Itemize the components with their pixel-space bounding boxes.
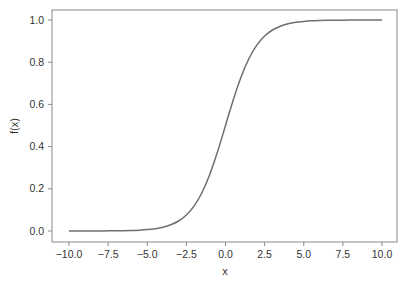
x-tick-label: −10.0 [56, 248, 83, 260]
y-tick-label: 0.8 [29, 56, 44, 68]
plot-frame [52, 10, 397, 242]
y-axis-ticks: 0.00.20.40.60.81.0 [29, 14, 52, 237]
x-axis-ticks: −10.0−7.5−5.0−2.50.02.55.07.510.0 [56, 242, 393, 260]
y-tick-label: 1.0 [29, 14, 44, 26]
x-tick-label: 0.0 [218, 248, 233, 260]
sigmoid-curve [69, 20, 382, 231]
y-tick-label: 0.2 [29, 182, 44, 194]
y-tick-label: 0.0 [29, 225, 44, 237]
x-tick-label: 10.0 [372, 248, 393, 260]
series-layer [69, 20, 382, 231]
x-tick-label: −5.0 [137, 248, 158, 260]
x-tick-label: −2.5 [176, 248, 197, 260]
x-axis-label: x [222, 265, 228, 277]
y-tick-label: 0.4 [29, 140, 44, 152]
x-tick-label: 5.0 [296, 248, 311, 260]
y-axis-label: f(x) [8, 118, 20, 134]
x-tick-label: 7.5 [336, 248, 351, 260]
y-tick-label: 0.6 [29, 98, 44, 110]
x-tick-label: −7.5 [98, 248, 119, 260]
sigmoid-chart: −10.0−7.5−5.0−2.50.02.55.07.510.0 0.00.2… [0, 0, 408, 285]
chart: −10.0−7.5−5.0−2.50.02.55.07.510.0 0.00.2… [0, 0, 408, 285]
plot-area: −10.0−7.5−5.0−2.50.02.55.07.510.0 0.00.2… [29, 10, 397, 260]
x-tick-label: 2.5 [257, 248, 272, 260]
